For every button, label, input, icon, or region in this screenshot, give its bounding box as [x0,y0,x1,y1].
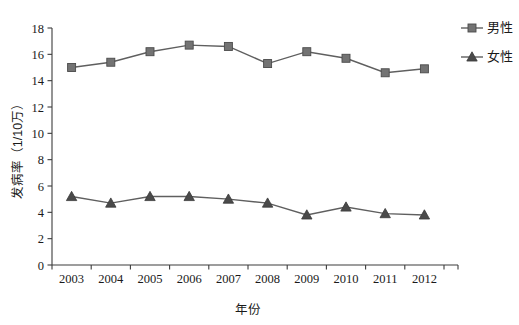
square-marker [420,65,428,73]
y-tick-label: 2 [38,232,44,246]
square-marker [185,41,193,49]
square-marker [264,60,272,68]
y-axis: 024681012141618 [32,22,53,273]
triangle-marker [66,191,76,200]
x-tick-label: 2009 [294,272,319,286]
series-container [66,41,429,219]
y-tick-label: 8 [38,153,44,167]
y-axis-title: 发病率（1/10万） [10,97,25,199]
square-marker [68,64,76,72]
square-marker [303,48,311,56]
chart-legend: 男性女性 [461,20,513,64]
x-tick-label: 2005 [138,272,163,286]
y-tick-label: 18 [32,22,45,36]
legend-label: 男性 [487,20,513,35]
x-tick-label: 2004 [98,272,124,286]
y-tick-label: 10 [32,127,45,141]
legend-item-2[interactable]: 女性 [461,49,513,64]
series-line [72,197,425,215]
y-tick-label: 0 [38,259,44,273]
y-tick-label: 6 [38,180,44,194]
x-tick-label: 2006 [177,272,202,286]
series-1 [68,41,429,77]
series-line [72,45,425,73]
x-tick-label: 2012 [412,272,437,286]
square-marker [342,54,350,62]
y-tick-label: 14 [32,74,45,88]
x-tick-label: 2010 [334,272,359,286]
x-tick-label: 2011 [373,272,398,286]
x-tick-label: 2008 [255,272,280,286]
triangle-marker [341,202,351,211]
x-tick-label: 2007 [216,272,241,286]
legend-label: 女性 [487,49,513,64]
y-tick-label: 16 [32,48,45,62]
square-marker [381,69,389,77]
x-axis-title: 年份 [235,303,261,317]
y-tick-label: 12 [32,101,45,115]
y-tick-label: 4 [38,206,45,220]
square-marker [468,24,476,32]
incidence-rate-line-chart: 024681012141618 200320042005200620072008… [0,0,519,325]
x-tick-label: 2003 [59,272,84,286]
square-marker [107,58,115,66]
chart-canvas: 024681012141618 200320042005200620072008… [0,0,519,325]
square-marker [146,48,154,56]
legend-item-1[interactable]: 男性 [461,20,513,35]
series-2 [66,191,429,219]
square-marker [224,42,232,50]
x-axis: 2003200420052006200720082009201020112012 [52,265,458,286]
